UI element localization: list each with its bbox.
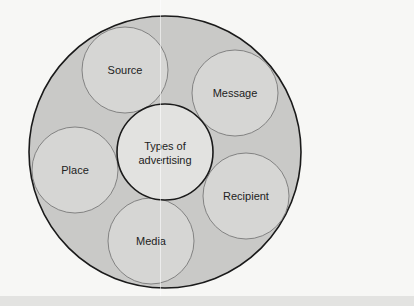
node-label: Place: [61, 164, 89, 176]
node-place: Place: [32, 127, 118, 213]
node-recipient: Recipient: [203, 153, 289, 239]
center-label-line2: advertising: [138, 154, 191, 166]
node-source: Source: [82, 27, 168, 113]
center-label-line1: Types of: [144, 140, 187, 152]
node-label: Media: [136, 235, 167, 247]
center-node: Types of advertising: [117, 104, 213, 200]
node-label: Source: [108, 64, 143, 76]
page-fold-line: [160, 0, 161, 296]
node-label: Recipient: [223, 190, 269, 202]
node-message: Message: [192, 50, 278, 136]
node-label: Message: [213, 87, 258, 99]
diagram-canvas: Source Message Place Recipient Media Typ…: [0, 0, 414, 306]
node-media: Media: [108, 198, 194, 284]
bottom-band: [0, 296, 414, 306]
